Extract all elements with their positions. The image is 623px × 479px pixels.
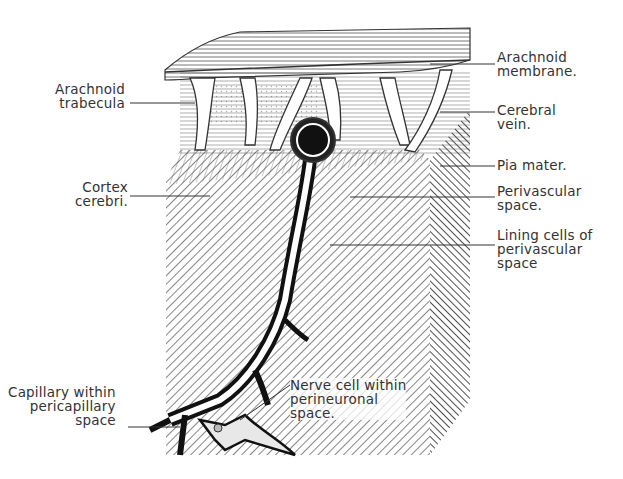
label-pia-mater: Pia mater. bbox=[497, 158, 567, 172]
label-lining-cells: Lining cells of perivascular space bbox=[497, 228, 593, 270]
label-cortex-cerebri: Cortex cerebri. bbox=[75, 180, 128, 208]
label-perivascular-space: Perivascular space. bbox=[497, 184, 582, 212]
label-arachnoid-membrane: Arachnoid membrane. bbox=[497, 50, 577, 78]
label-arachnoid-trabecula: Arachnoid trabecula bbox=[55, 82, 125, 110]
label-nerve-cell: Nerve cell within perineuronal space. bbox=[290, 378, 406, 420]
label-cerebral-vein: Cerebral vein. bbox=[497, 103, 556, 131]
label-capillary: Capillary within pericapillary space bbox=[8, 385, 116, 427]
